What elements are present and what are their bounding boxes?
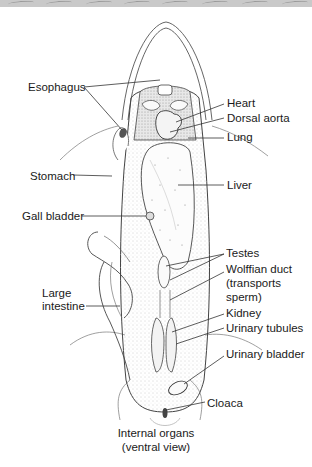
gall-bladder-organ	[146, 212, 154, 220]
label-stomach: Stomach	[30, 170, 75, 183]
label-heart: Heart	[227, 97, 255, 110]
label-liver: Liver	[227, 179, 252, 192]
label-large-intestine-line2: intestine	[42, 300, 85, 313]
label-wolffian-duct-line2: (transports	[226, 277, 281, 290]
label-testes: Testes	[226, 247, 259, 260]
label-cloaca: Cloaca	[207, 397, 243, 410]
label-large-intestine-line1: Large	[42, 287, 71, 300]
label-wolffian-duct-line1: Wolffian duct	[226, 263, 292, 276]
label-wolffian-duct-line3: sperm)	[226, 291, 262, 304]
label-esophagus: Esophagus	[28, 81, 86, 94]
frog-anatomy-illustration	[0, 0, 312, 467]
label-kidney: Kidney	[226, 307, 261, 320]
figure-caption: Internal organs (ventral view)	[0, 426, 312, 454]
label-urinary-tubules: Urinary tubules	[226, 322, 303, 335]
label-lung: Lung	[227, 131, 253, 144]
label-dorsal-aorta: Dorsal aorta	[227, 112, 290, 125]
caption-line1: Internal organs	[0, 426, 312, 440]
testes-organ	[158, 256, 170, 288]
caption-line2: (ventral view)	[0, 440, 312, 454]
label-gall-bladder: Gall bladder	[22, 210, 84, 223]
label-urinary-bladder: Urinary bladder	[226, 348, 305, 361]
kidney-organ	[152, 318, 165, 372]
